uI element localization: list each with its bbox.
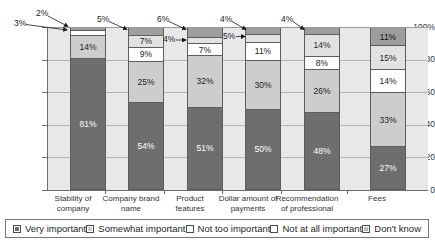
segment-not-too-important[interactable]: 11% bbox=[245, 42, 281, 60]
callout-4-percent-dollar: 4% bbox=[220, 15, 232, 24]
callout-5-percent-dollar: 5% bbox=[223, 32, 235, 41]
data-label: 8% bbox=[316, 59, 328, 67]
data-label: 54% bbox=[137, 142, 154, 150]
data-label: 15% bbox=[379, 54, 396, 62]
bar-company-brand-name[interactable]: 7% 9% 25% 54% bbox=[128, 27, 164, 190]
data-label: 26% bbox=[313, 87, 330, 95]
segment-somewhat-important[interactable]: 32% bbox=[187, 55, 223, 107]
data-label: 14% bbox=[313, 41, 330, 49]
legend-label: Not at all important bbox=[282, 223, 362, 234]
segment-dont-know[interactable] bbox=[128, 27, 164, 35]
legend-label: Somewhat important bbox=[98, 223, 185, 234]
segment-very-important[interactable]: 27% bbox=[370, 146, 406, 190]
data-label: 11% bbox=[255, 47, 271, 55]
bar-side-face bbox=[339, 69, 340, 111]
label-line: of professional bbox=[264, 204, 350, 214]
segment-not-too-important[interactable]: 9% bbox=[128, 47, 164, 62]
segment-very-important[interactable]: 81% bbox=[70, 58, 106, 190]
legend-item-not-at-all-important[interactable]: Not at all important bbox=[270, 223, 362, 234]
data-label: 7% bbox=[140, 37, 152, 45]
segment-somewhat-important[interactable]: 25% bbox=[128, 61, 164, 102]
bar-side-face bbox=[222, 107, 223, 189]
swatch-dont-know-icon bbox=[362, 225, 370, 233]
legend-item-dont-know[interactable]: Don't know bbox=[362, 223, 421, 234]
data-label: 14% bbox=[379, 77, 396, 85]
segment-very-important[interactable]: 48% bbox=[304, 112, 340, 190]
legend-label: Very important bbox=[25, 223, 86, 234]
swatch-somewhat-important-icon bbox=[86, 225, 94, 233]
bar-side-face bbox=[339, 112, 340, 189]
bar-side-face bbox=[280, 109, 281, 190]
segment-somewhat-important[interactable]: 30% bbox=[245, 60, 281, 109]
segment-dont-know[interactable]: 11% bbox=[370, 27, 406, 45]
data-label: 14% bbox=[79, 43, 96, 51]
segment-not-too-important[interactable]: 14% bbox=[370, 69, 406, 92]
data-label: 9% bbox=[140, 50, 152, 58]
swatch-not-at-all-important-icon bbox=[270, 225, 278, 233]
bar-side-face bbox=[222, 55, 223, 107]
data-label: 25% bbox=[137, 78, 154, 86]
segment-very-important[interactable]: 50% bbox=[245, 109, 281, 191]
segment-very-important[interactable]: 54% bbox=[128, 102, 164, 190]
bar-side-face bbox=[405, 146, 406, 189]
segment-somewhat-important[interactable]: 14% bbox=[70, 35, 106, 58]
bar-side-face bbox=[222, 43, 223, 54]
swatch-not-too-important-icon bbox=[186, 225, 194, 233]
bar-side-face bbox=[163, 47, 164, 62]
segment-very-important[interactable]: 51% bbox=[187, 107, 223, 190]
bar-side-face bbox=[105, 35, 106, 58]
bar-side-face bbox=[105, 58, 106, 189]
bar-side-face bbox=[339, 56, 340, 69]
label-line: Fees bbox=[334, 194, 420, 204]
segment-dont-know[interactable] bbox=[187, 27, 223, 37]
data-label: 11% bbox=[380, 33, 396, 41]
legend-item-very-important[interactable]: Very important bbox=[13, 223, 86, 234]
bar-side-face bbox=[280, 60, 281, 109]
segment-not-at-all-important[interactable]: 7% bbox=[128, 35, 164, 46]
bar-fees[interactable]: 11% 15% 14% 33% 27% bbox=[370, 27, 406, 190]
bar-side-face bbox=[405, 45, 406, 69]
bar-side-face bbox=[339, 34, 340, 57]
bar-dollar-amount-of-payments[interactable]: 11% 30% 50% bbox=[245, 27, 281, 190]
callout-3-percent-stability: 3% bbox=[14, 19, 26, 28]
segment-not-at-all-important[interactable] bbox=[245, 34, 281, 42]
segment-not-at-all-important[interactable]: 14% bbox=[304, 34, 340, 57]
legend-label: Don't know bbox=[374, 223, 421, 234]
bar-stability-of-company[interactable]: 14% 81% bbox=[70, 27, 106, 190]
data-label: 7% bbox=[199, 46, 211, 54]
bar-side-face bbox=[405, 27, 406, 45]
bar-side-face bbox=[405, 92, 406, 146]
segment-somewhat-important[interactable]: 26% bbox=[304, 69, 340, 111]
data-label: 50% bbox=[254, 145, 271, 153]
data-label: 27% bbox=[379, 164, 396, 172]
plot-top-border bbox=[47, 27, 428, 28]
chart-legend: Very important Somewhat important Not to… bbox=[5, 219, 429, 238]
data-label: 33% bbox=[379, 116, 396, 124]
legend-item-somewhat-important[interactable]: Somewhat important bbox=[86, 223, 185, 234]
data-label: 32% bbox=[196, 77, 213, 85]
plot-area: 14% 81% 7% 9% 25% bbox=[47, 27, 428, 190]
bar-side-face bbox=[280, 42, 281, 60]
segment-not-at-all-important[interactable]: 15% bbox=[370, 45, 406, 69]
swatch-very-important-icon bbox=[13, 225, 21, 233]
callout-4-percent-recommendation: 4% bbox=[281, 15, 293, 24]
bar-side-face bbox=[163, 61, 164, 102]
callout-4-percent-product: 4% bbox=[163, 35, 175, 44]
bar-product-features[interactable]: 7% 32% 51% bbox=[187, 27, 223, 190]
segment-not-too-important[interactable]: 8% bbox=[304, 56, 340, 69]
data-label: 48% bbox=[313, 147, 330, 155]
data-label: 30% bbox=[254, 81, 271, 89]
segment-somewhat-important[interactable]: 33% bbox=[370, 92, 406, 146]
bar-side-face bbox=[163, 102, 164, 189]
x-axis-label-fees: Fees bbox=[334, 194, 420, 204]
callout-6-percent-product: 6% bbox=[157, 15, 169, 24]
bar-recommendation-of-professional[interactable]: 14% 8% 26% 48% bbox=[304, 27, 340, 190]
data-label: 81% bbox=[79, 120, 96, 128]
stacked-column-chart: 100% 80 60 40 20 0 bbox=[0, 0, 435, 244]
callout-5-percent-brand: 5% bbox=[97, 15, 109, 24]
bar-side-face bbox=[405, 69, 406, 92]
data-label: 51% bbox=[196, 144, 213, 152]
legend-item-not-too-important[interactable]: Not too important bbox=[186, 223, 271, 234]
callout-2-percent-stability: 2% bbox=[36, 9, 48, 18]
segment-not-too-important[interactable]: 7% bbox=[187, 43, 223, 54]
